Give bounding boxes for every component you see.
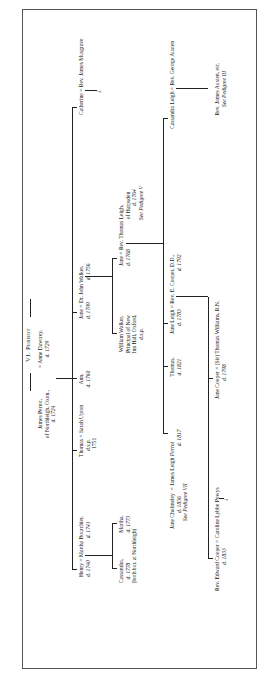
tick-james-leigh-perrot <box>163 433 168 434</box>
tick-thomas-leigh <box>163 366 168 367</box>
austen-drop-line <box>176 88 208 89</box>
james-perrot: James Perrot, of Northleigh, Oxon., d. 1… <box>37 390 57 438</box>
jane-cooper: Jane Cooper = (Sir) Thomas Williams, R.N… <box>214 301 227 399</box>
pedigree-chart: VI. Perrot James Perrot, of Northleigh, … <box>22 9 257 669</box>
cassandra-leigh: Cassandra Leigh = Rev. George Austen <box>169 41 176 129</box>
title-rule-left <box>30 373 31 391</box>
tick-jane-cooper <box>208 378 213 379</box>
gen1-drop-line <box>56 378 72 379</box>
martha-perrot: Martha, d. 1773 <box>118 515 131 533</box>
title-rule-right <box>30 299 31 317</box>
tick-jane-leigh <box>112 258 117 259</box>
gen2-tick-ann <box>72 378 77 379</box>
walker-drop-line <box>85 276 112 277</box>
james-austen: Rev. James Austen, etc. See Pedigree III <box>214 63 227 116</box>
gen2-tick-jane <box>72 312 77 313</box>
tick-martha <box>112 523 117 524</box>
cooper-drop-line <box>176 296 208 297</box>
tick-william-walker <box>112 333 117 334</box>
arrow-down-icon: → <box>96 88 103 95</box>
cassandra-perrot: Cassandra, d. 1778 (both bur. at Northle… <box>118 529 138 614</box>
powys-drop <box>219 498 224 499</box>
tick-jane-leigh-cooper <box>163 323 168 324</box>
thomas-leigh: Thomas, d. 1821 <box>169 357 182 376</box>
tick-cassandra <box>112 568 117 569</box>
edward-cooper: Rev. Edward Cooper = Caroline Lybbe Powy… <box>214 487 227 591</box>
henry-drop-line <box>85 555 112 556</box>
walker-children-bar <box>112 259 113 334</box>
chart-title: VI. Perrot <box>25 328 32 362</box>
gen2-tick-catherine <box>72 107 77 108</box>
jane-walker-leigh: Jane = Rev. Thomas Leigh, d. 1768of Harp… <box>118 186 144 266</box>
tick-edward-cooper <box>208 558 213 559</box>
catherine: Catherine = Rev. James Musgrave <box>78 38 85 115</box>
gen2-sibling-bar <box>72 108 73 570</box>
henry-children-bar <box>112 524 113 569</box>
arrow-down-icon: → <box>223 496 230 503</box>
ann: Ann, d. 1760 <box>78 371 91 388</box>
jane-cholmeley: Jane Cholmeley = James Leigh Perrot d. 1… <box>169 429 189 529</box>
henry: Henry = Martha Bourchier, d. 1740d. 1741 <box>78 516 91 577</box>
leigh-drop-line <box>126 243 164 244</box>
thomas: Thomas = Sarah Upton d.s.p. 1751 <box>78 405 98 457</box>
gen2-tick-thomas <box>72 450 77 451</box>
tick-cassandra-leigh <box>163 118 168 119</box>
leigh-children-bar <box>163 119 164 434</box>
anne-dawtrey: = Anne Dawtrey, d. 1729 <box>37 330 50 368</box>
gen2-tick-henry <box>72 569 77 570</box>
william-walker: William Walker, Principal of New Inn Hal… <box>118 315 144 354</box>
jane-walker: Jane = Dr. John Walker, d. 1709d. 1756 <box>78 263 91 319</box>
cooper-children-bar <box>208 297 209 559</box>
jane-leigh-cooper: Jane Leigh = Rev. E. Cooper, D.D., d. 17… <box>169 254 182 334</box>
